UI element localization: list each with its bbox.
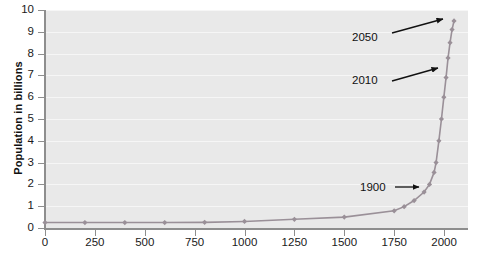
y-axis-tick-label: 5: [4, 112, 34, 124]
gridline: [45, 119, 468, 120]
y-axis-tick: [38, 54, 44, 55]
y-axis-tick-label: 4: [4, 134, 34, 146]
y-axis-tick: [38, 141, 44, 142]
y-axis-tick: [38, 32, 44, 33]
y-axis-tick-label: 2: [4, 177, 34, 189]
x-axis-tick-label: 0: [23, 236, 67, 248]
x-axis-tick-label: 2000: [422, 236, 466, 248]
gridline: [45, 32, 468, 33]
x-axis-tick-label: 1000: [223, 236, 267, 248]
y-axis-tick: [38, 228, 44, 229]
annotation-label-1900: 1900: [360, 181, 386, 193]
x-axis-tick-label: 1500: [322, 236, 366, 248]
y-axis-tick-label: 10: [4, 3, 34, 15]
gridline: [45, 97, 468, 98]
y-axis-tick-label: 9: [4, 25, 34, 37]
y-axis-tick: [38, 75, 44, 76]
gridline: [45, 54, 468, 55]
gridline: [45, 184, 468, 185]
y-axis-tick-label: 3: [4, 156, 34, 168]
gridline: [45, 141, 468, 142]
y-axis-tick-label: 8: [4, 47, 34, 59]
gridline: [45, 75, 468, 76]
y-axis-tick: [38, 184, 44, 185]
population-chart: Population in billions 012345678910 0250…: [0, 0, 484, 257]
gridline: [45, 206, 468, 207]
x-axis-line: [44, 228, 468, 230]
annotation-label-2010: 2010: [352, 74, 378, 86]
y-axis-tick: [38, 97, 44, 98]
x-axis-tick-label: 750: [173, 236, 217, 248]
y-axis-tick-label: 0: [4, 221, 34, 233]
y-axis-tick-label: 6: [4, 90, 34, 102]
y-axis-tick: [38, 163, 44, 164]
y-axis-tick: [38, 206, 44, 207]
y-axis-tick: [38, 119, 44, 120]
x-axis-tick-label: 250: [73, 236, 117, 248]
y-axis-tick: [38, 10, 44, 11]
x-axis-tick-label: 500: [123, 236, 167, 248]
x-axis-tick-label: 1750: [372, 236, 416, 248]
x-axis-tick-label: 1250: [272, 236, 316, 248]
gridline: [45, 10, 468, 11]
annotation-label-2050: 2050: [352, 31, 378, 43]
plot-area: [45, 10, 468, 228]
y-axis-tick-label: 7: [4, 68, 34, 80]
y-axis-tick-label: 1: [4, 199, 34, 211]
gridline: [45, 163, 468, 164]
y-axis-line: [44, 10, 46, 229]
